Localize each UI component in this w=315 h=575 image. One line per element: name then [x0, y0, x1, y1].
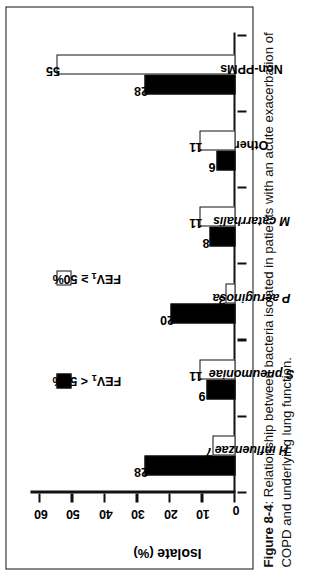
bar-value-label: 7 [205, 445, 212, 458]
figure-caption: Figure 8-4: Relationship between bacteri… [259, 8, 309, 567]
y-axis-tick [103, 493, 105, 502]
rotated-figure-plate: FEV1 < 50% FEV1 ≥ 50% Isolate (%) 010203… [0, 0, 315, 575]
bar-wrapper: 20 [40, 303, 235, 323]
x-axis-category-tick [237, 186, 246, 188]
y-axis-title: Isolate (%) [132, 545, 200, 561]
bar-value-label: 28 [133, 465, 147, 478]
bar-value-label: 11 [189, 216, 202, 229]
x-axis-category-tick [237, 110, 246, 112]
bar-value-label: 6 [208, 160, 215, 173]
bar[interactable]: 28 [144, 74, 235, 94]
bar-wrapper: 11 [40, 206, 235, 226]
y-axis-tick-label: 60 [33, 507, 47, 520]
bar[interactable]: 11 [199, 130, 235, 150]
y-axis-tick [168, 493, 170, 502]
bar-group: 203P aeruginosa [40, 264, 235, 340]
bar-wrapper: 9 [40, 379, 235, 399]
caption-separator: : [260, 497, 275, 504]
bar[interactable]: 55 [56, 54, 235, 74]
bar-value-label: 55 [45, 64, 59, 77]
bar[interactable]: 8 [209, 226, 235, 246]
bar-group: 287H influenzae [40, 417, 235, 493]
y-axis-tick-label: 30 [131, 507, 145, 520]
bar-wrapper: 7 [40, 435, 235, 455]
bar-group: 2855Non-PPMs [40, 36, 235, 112]
bar-wrapper: 11 [40, 130, 235, 150]
y-axis-tick-label: 50 [66, 507, 80, 520]
y-axis-tick [70, 493, 72, 502]
bar-value-label: 11 [189, 140, 202, 153]
y-axis-tick [135, 493, 137, 502]
y-axis-tick-label: 40 [98, 507, 112, 520]
scanned-page: FEV1 < 50% FEV1 ≥ 50% Isolate (%) 010203… [0, 0, 315, 575]
bar-wrapper: 11 [40, 359, 235, 379]
x-axis-category-tick [237, 338, 246, 340]
bar-groups: 287H influenzae911S pneumoniae203P aerug… [40, 36, 235, 493]
bar[interactable]: 9 [206, 379, 235, 399]
bar[interactable]: 6 [216, 150, 236, 170]
bar[interactable]: 28 [144, 455, 235, 475]
y-axis-tick [233, 493, 235, 502]
bar-wrapper: 55 [40, 54, 235, 74]
bar-value-label: 8 [202, 236, 209, 249]
y-axis-title-main: Isolate [156, 545, 200, 561]
bar-value-label: 20 [159, 313, 173, 326]
x-axis-category-tick [237, 415, 246, 417]
bar-group: 811M catarrhalis [40, 188, 235, 264]
y-axis-tick-label: 10 [196, 507, 210, 520]
x-axis-category-tick [237, 491, 246, 493]
bar-value-label: 9 [198, 389, 205, 402]
figure-number: Figure 8-4 [260, 504, 275, 567]
caption-text: Relationship between bacteria isolated i… [260, 32, 293, 567]
bar-group: 911S pneumoniae [40, 341, 235, 417]
bar-value-label: 11 [189, 369, 202, 382]
bar-group: 611Other [40, 112, 235, 188]
y-axis-title-units: (%) [132, 545, 156, 560]
bar-wrapper: 3 [40, 283, 235, 303]
x-axis-category-tick [237, 34, 246, 36]
bar-wrapper: 6 [40, 150, 235, 170]
bar-wrapper: 28 [40, 74, 235, 94]
bar-wrapper: 8 [40, 226, 235, 246]
figure: FEV1 < 50% FEV1 ≥ 50% Isolate (%) 010203… [0, 0, 315, 575]
bar-value-label: 28 [133, 84, 147, 97]
y-axis-tick [38, 493, 40, 502]
y-axis-tick-label: 20 [163, 507, 177, 520]
x-axis-category-tick [237, 262, 246, 264]
y-axis-tick [200, 493, 202, 502]
y-axis-tick-label: 0 [232, 503, 239, 516]
plot-area: 0102030405060 287H influenzae911S pneumo… [40, 36, 235, 493]
